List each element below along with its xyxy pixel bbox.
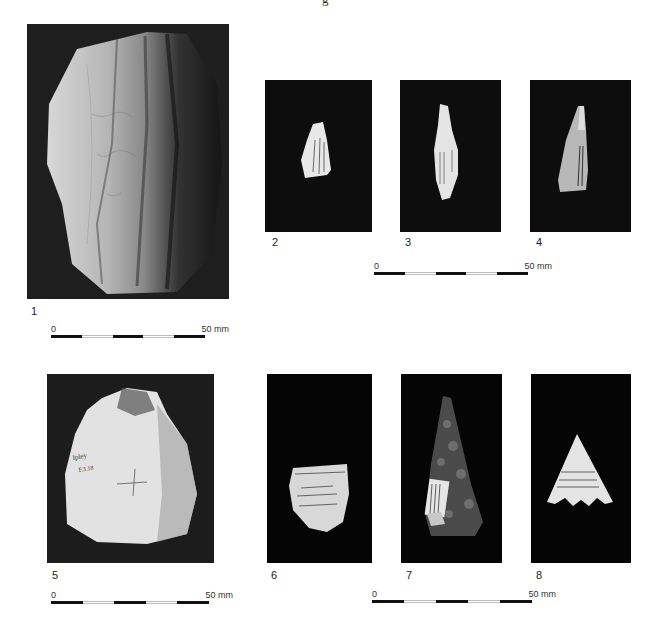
flint-core-image	[27, 24, 229, 299]
figure-label-2: 2	[272, 236, 278, 248]
blade-image	[400, 80, 501, 232]
pointed-blade-image	[530, 80, 631, 232]
page-number-mark: g	[322, 0, 329, 7]
barbed-arrowhead-image	[531, 374, 631, 563]
bifacial-point-image	[401, 374, 502, 563]
scale-max-label: 50 mm	[524, 261, 552, 271]
figure-label-3: 3	[405, 236, 411, 248]
figure-label-4: 4	[536, 236, 542, 248]
artifact-photo-4	[530, 80, 631, 232]
scale-max-label: 50 mm	[201, 324, 229, 334]
figure-label-1: 1	[31, 305, 37, 317]
scale-bar-graphic	[51, 335, 205, 338]
scale-max-label: 50 mm	[528, 589, 556, 599]
artifact-photo-6	[267, 374, 372, 563]
artifact-photo-5: Ipley F.3.18	[47, 374, 214, 563]
scale-bar-graphic	[374, 272, 528, 275]
artifact-photo-7	[401, 374, 502, 563]
figure-label-7: 7	[406, 569, 412, 581]
artifact-photo-1	[27, 24, 229, 299]
artifact-photo-8	[531, 374, 631, 563]
scale-zero-label: 0	[51, 590, 56, 600]
blade-fragment-image	[265, 80, 372, 232]
scale-bar-6-8: 0 50 mm	[372, 589, 532, 605]
figure-label-5: 5	[52, 569, 58, 581]
scale-zero-label: 0	[372, 589, 377, 599]
scale-bar-graphic	[372, 600, 532, 603]
scale-bar-5: 0 50 mm	[51, 590, 209, 606]
scale-zero-label: 0	[51, 324, 56, 334]
scale-bar-1: 0 50 mm	[51, 324, 205, 340]
figure-label-6: 6	[271, 569, 277, 581]
figure-label-8: 8	[536, 569, 542, 581]
scale-max-label: 50 mm	[205, 590, 233, 600]
flint-nodule-image: Ipley F.3.18	[47, 374, 214, 563]
scale-bar-2-4: 0 50 mm	[374, 261, 528, 277]
scale-bar-graphic	[51, 601, 209, 604]
artifact-photo-2	[265, 80, 372, 232]
scale-zero-label: 0	[374, 261, 379, 271]
artifact-photo-3	[400, 80, 501, 232]
flake-image	[267, 374, 372, 563]
